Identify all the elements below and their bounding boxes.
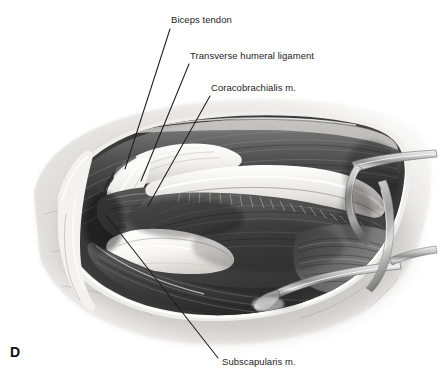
label-transverse-humeral-ligament: Transverse humeral ligament (190, 50, 314, 61)
label-subscapularis: Subscapularis m. (222, 356, 296, 367)
figure-panel: Biceps tendon Transverse humeral ligamen… (0, 0, 440, 387)
panel-letter: D (10, 344, 20, 360)
label-coracobrachialis: Coracobrachialis m. (211, 82, 296, 93)
label-biceps-tendon: Biceps tendon (171, 14, 232, 25)
